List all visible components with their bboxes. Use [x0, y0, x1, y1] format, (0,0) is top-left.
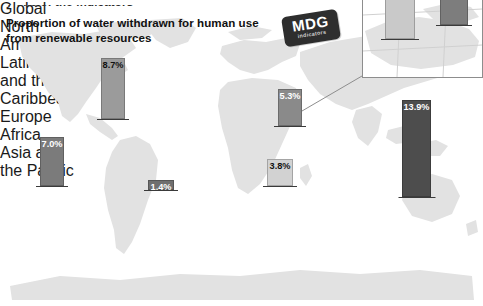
bar-baseline-global	[36, 186, 68, 187]
bar-baseline-northern-africa	[381, 39, 419, 40]
bar-baseline-asia-pacific	[398, 197, 435, 198]
bar-latin-america: 1.4%	[148, 180, 174, 190]
bar-europe: 5.3%	[278, 89, 302, 126]
bar-column-mashriq	[440, 0, 468, 25]
bar-value-label-africa: 3.8%	[270, 161, 291, 172]
inset-callout-box: 78.4%Northern AfricaMashriq	[362, 0, 483, 78]
bar-value-label-north-america: 8.7%	[103, 60, 124, 71]
bar-africa: 3.8%	[267, 159, 293, 186]
bar-baseline-europe	[274, 126, 306, 127]
bar-value-label-global: 7.0%	[42, 139, 63, 150]
bar-baseline-latin-america	[144, 190, 178, 191]
bar-column-asia-pacific	[402, 100, 431, 197]
bar-northern-africa: 78.4%	[385, 0, 415, 39]
bar-north-america: 8.7%	[101, 58, 125, 119]
bar-mashriq	[440, 0, 468, 25]
bar-asia-pacific: 13.9%	[402, 100, 431, 197]
bar-value-label-asia-pacific: 13.9%	[403, 102, 429, 113]
bar-value-label-europe: 5.3%	[280, 91, 301, 102]
bar-column-northern-africa	[385, 0, 415, 39]
inset-connector-line	[290, 70, 370, 118]
bar-global: 7.0%	[40, 137, 64, 186]
chart-title: Proportion of water withdrawn for human …	[6, 16, 268, 45]
bar-value-label-latin-america: 1.4%	[151, 182, 172, 193]
bar-baseline-africa	[263, 186, 297, 187]
bar-baseline-north-america	[97, 119, 129, 120]
bar-baseline-mashriq	[436, 25, 472, 26]
